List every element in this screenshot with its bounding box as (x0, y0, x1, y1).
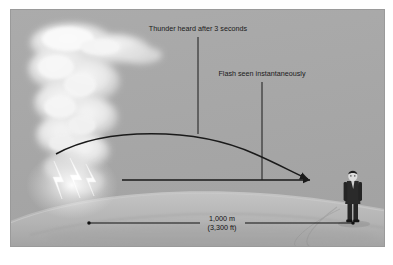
flash-label: Flash seen instantaneously (218, 69, 306, 78)
distance-metric-label: 1,000 m (209, 214, 235, 223)
distance-imperial-label: (3,300 ft) (208, 223, 237, 232)
diagram-panel: Thunder heard after 3 seconds Flash seen… (10, 9, 385, 247)
figure-root: Thunder heard after 3 seconds Flash seen… (0, 0, 393, 265)
diagram-canvas: Thunder heard after 3 seconds Flash seen… (10, 9, 385, 247)
thunder-label: Thunder heard after 3 seconds (149, 24, 248, 33)
